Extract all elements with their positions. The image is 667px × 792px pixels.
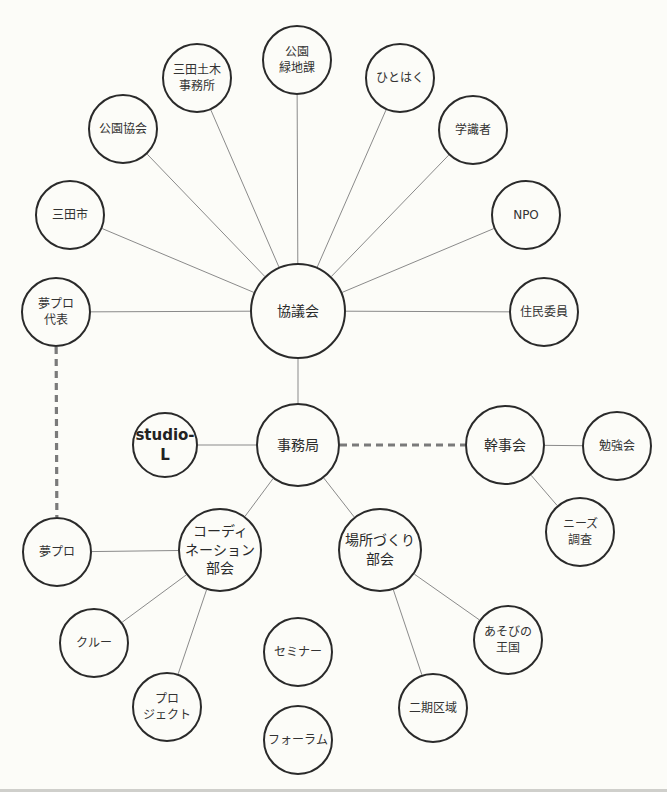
node-label: コーディ ネーション 部会 (185, 522, 255, 579)
node-koen-ryokuchika: 公園 緑地課 (262, 25, 332, 95)
edge-coordination_bukai-yumepro (92, 551, 178, 552)
node-sanda-doboku: 三田土木 事務所 (162, 43, 232, 113)
node-label: 三田市 (52, 207, 88, 223)
edge-coordination_bukai-project (178, 590, 206, 674)
node-label: 三田土木 事務所 (173, 62, 221, 94)
node-label: クルー (76, 635, 112, 651)
edge-kyogikai-koen_ryokuchika (297, 95, 298, 263)
node-label: 幹事会 (484, 436, 526, 455)
node-label: セミナー (274, 644, 322, 660)
edge-kanjikai-needs_chosa (531, 475, 557, 505)
edge-bashozukuri_bukai-niki_kuiki (393, 590, 422, 675)
node-label: 事務局 (277, 436, 319, 455)
node-label: あそびの 王国 (484, 624, 532, 656)
edge-kyogikai-sanda_doboku (211, 110, 279, 267)
node-koen-kyokai: 公園協会 (88, 94, 158, 164)
node-label: 夢プロ 代表 (38, 296, 74, 328)
edge-jimukyoku-bashozukuri_bukai (324, 478, 354, 517)
node-label: 学識者 (455, 122, 491, 138)
node-yumepro-daihyo: 夢プロ 代表 (21, 277, 91, 347)
edge-kyogikai-hitohaku (317, 110, 386, 267)
node-benkyokai: 勉強会 (582, 411, 652, 481)
node-gakushikisha: 学識者 (438, 95, 508, 165)
edge-yumepro_daihyo-yumepro (56, 347, 57, 517)
node-studio-l: studio-L (132, 412, 198, 478)
edge-jimukyoku-coordination_bukai (245, 479, 273, 517)
node-label: 協議会 (277, 302, 319, 321)
edge-kyogikai-npo (342, 229, 494, 293)
edge-kyogikai-sanda_shi (102, 229, 254, 293)
edge-bashozukuri_bukai-asobi_no_okoku (414, 574, 479, 620)
node-jumin-iin: 住民委員 (509, 277, 579, 347)
node-label: フォーラム (268, 732, 328, 748)
edge-kyogikai-jumin_iin (346, 311, 509, 312)
node-label: 二期区域 (409, 700, 457, 716)
node-coordination-bukai: コーディ ネーション 部会 (178, 508, 262, 592)
node-label: 夢プロ (39, 544, 75, 560)
node-bashozukuri-bukai: 場所づくり 部会 (338, 508, 422, 592)
node-sanda-shi: 三田市 (35, 180, 105, 250)
node-label: 勉強会 (599, 438, 635, 454)
node-seminar: セミナー (263, 617, 333, 687)
node-asobi-no-okoku: あそびの 王国 (473, 605, 543, 675)
node-forum: フォーラム (263, 705, 333, 775)
node-needs-chosa: ニーズ 調査 (545, 497, 615, 567)
node-label: studio-L (134, 425, 196, 466)
node-label: プロ ジェクト (143, 691, 191, 723)
node-kyogikai: 協議会 (250, 263, 346, 359)
edge-kyogikai-koen_kyokai (147, 154, 264, 276)
node-label: 場所づくり 部会 (345, 531, 415, 569)
node-label: 住民委員 (520, 304, 568, 320)
node-label: 公園 緑地課 (279, 44, 315, 76)
node-label: ニーズ 調査 (563, 516, 598, 548)
node-label: ひとはく (376, 70, 424, 86)
node-label: NPO (513, 207, 539, 223)
node-npo: NPO (491, 180, 561, 250)
node-label: 公園協会 (99, 121, 147, 137)
node-yumepro: 夢プロ (22, 517, 92, 587)
edge-kyogikai-yumepro_daihyo (91, 311, 250, 312)
node-jimukyoku: 事務局 (256, 403, 340, 487)
edge-kyogikai-gakushikisha (331, 155, 448, 276)
node-kanjikai: 幹事会 (465, 405, 545, 485)
node-crew: クルー (59, 608, 129, 678)
node-niki-kuiki: 二期区域 (398, 673, 468, 743)
edge-coordination_bukai-crew (122, 575, 186, 622)
node-hitohaku: ひとはく (365, 43, 435, 113)
node-project: プロ ジェクト (132, 672, 202, 742)
